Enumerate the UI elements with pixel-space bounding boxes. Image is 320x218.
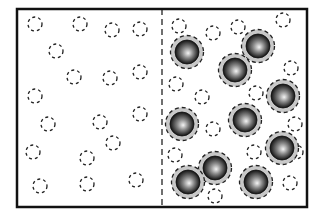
large-sphere-icon [240, 166, 273, 199]
large-sphere-icon [171, 36, 204, 69]
particle-diagram [0, 0, 320, 218]
large-sphere-icon [267, 80, 300, 113]
large-sphere-icon [166, 108, 199, 141]
large-sphere-icon [242, 30, 275, 63]
large-sphere-icon [219, 54, 252, 87]
large-sphere-icon [172, 166, 205, 199]
large-sphere-icon [266, 132, 299, 165]
diagram-canvas [0, 0, 320, 218]
large-sphere-icon [229, 104, 262, 137]
